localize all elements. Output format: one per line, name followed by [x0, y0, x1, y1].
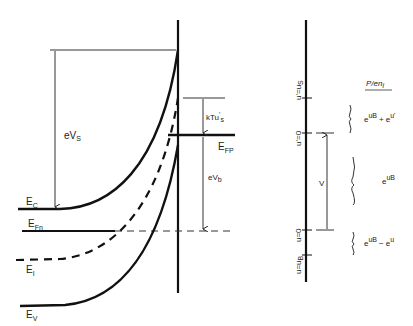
tick-label-us: u'=uS: [294, 80, 304, 100]
column-header: P/eni: [366, 79, 384, 89]
brace-lower: [352, 232, 354, 255]
label-efp: EFP: [218, 141, 234, 154]
intrinsic-level-curve: [16, 98, 178, 260]
label-ec: EC: [26, 196, 38, 209]
conduction-band-curve: [18, 50, 178, 209]
brace-upper: [349, 105, 351, 133]
label-ev: EV: [26, 309, 38, 322]
expr-middle: euB: [382, 174, 395, 186]
label-kt: kTu's: [206, 111, 224, 123]
brace-middle: [352, 157, 355, 205]
label-evs: eVS: [64, 130, 81, 142]
expr-lower: euB−eu: [364, 236, 394, 248]
expr-upper: euB+eu': [364, 112, 395, 124]
label-evb: eVb: [208, 173, 222, 183]
tick-label-ub: u=uB: [294, 255, 304, 274]
label-ei: EI: [26, 264, 35, 277]
tick-label-u-0: u=0: [294, 228, 303, 242]
label-efn: EFn: [28, 218, 43, 231]
label-v: V: [319, 179, 325, 188]
valence-band-curve: [20, 145, 178, 306]
tick-label-u-prime-0: u'=0: [294, 130, 303, 146]
band-diagram: EC EFn EI EV EFP eVS kTu's eVb V u'=uS u…: [0, 0, 413, 326]
